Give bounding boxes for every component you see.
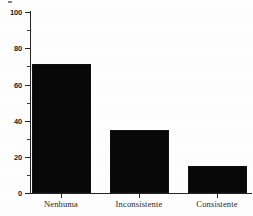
y-minor-tick-70 [27, 66, 31, 67]
y-tick-0 [25, 193, 31, 194]
y-minor-tick-50 [27, 103, 31, 104]
x-label-inconsistente: Inconsistente [99, 199, 179, 209]
y-tick-label-0: 0 [0, 189, 22, 198]
x-label-consistente: Consistente [177, 199, 253, 209]
y-tick-60 [25, 85, 31, 86]
bar-nenhuma [32, 64, 91, 193]
y-tick-40 [25, 121, 31, 122]
y-tick-100 [25, 12, 31, 13]
y-tick-20 [25, 157, 31, 158]
bar-chart-figure: 100 80 60 40 20 0 Nenhuma Inconsistente … [0, 0, 253, 216]
x-label-nenhuma: Nenhuma [21, 199, 101, 209]
y-tick-label-100: 100 [0, 8, 22, 17]
x-axis-line [30, 193, 252, 194]
y-tick-label-60: 60 [0, 81, 22, 90]
y-tick-80 [25, 48, 31, 49]
x-tick-nenhuma [61, 194, 62, 198]
y-minor-tick-90 [27, 30, 31, 31]
y-minor-tick-10 [27, 175, 31, 176]
y-tick-label-20: 20 [0, 153, 22, 162]
bar-inconsistente [110, 130, 169, 193]
y-tick-label-80: 80 [0, 44, 22, 53]
x-tick-consistente [217, 194, 218, 198]
bar-consistente [188, 166, 247, 193]
y-minor-tick-30 [27, 139, 31, 140]
x-tick-inconsistente [139, 194, 140, 198]
y-tick-label-40: 40 [0, 117, 22, 126]
scan-artifact-mark [8, 1, 12, 3]
